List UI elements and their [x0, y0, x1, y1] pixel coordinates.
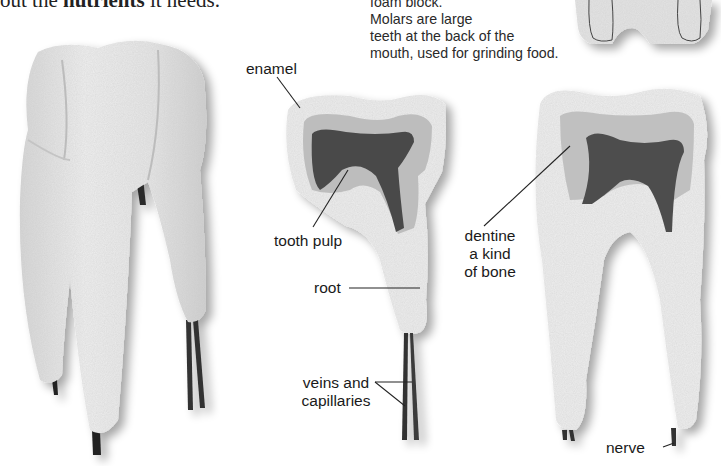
label-dentine: dentine a kind of bone [460, 227, 520, 281]
label-dentine-desc2: of bone [460, 263, 520, 281]
label-tooth-pulp: tooth pulp [274, 232, 342, 250]
label-veins-line2: capillaries [296, 392, 376, 410]
label-root: root [314, 279, 341, 297]
label-veins-capillaries: veins and capillaries [296, 374, 376, 410]
label-dentine-title: dentine [460, 227, 520, 245]
label-nerve: nerve [606, 439, 645, 457]
whole-molar-model [20, 41, 206, 455]
molar-top-cropped [575, 0, 712, 44]
label-veins-line1: veins and [296, 374, 376, 392]
leader-enamel [277, 77, 300, 108]
label-dentine-desc1: a kind [460, 245, 520, 263]
label-enamel: enamel [246, 60, 297, 78]
leader-veins-2 [375, 382, 405, 406]
cross-section-full [535, 89, 707, 446]
